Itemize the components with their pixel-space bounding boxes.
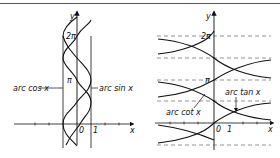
right-tick-one: 1 (227, 125, 232, 134)
arccos-label: arc cos x (13, 84, 49, 93)
right-tick-pi: π (205, 76, 210, 85)
arctan-label: arc tan x (225, 88, 261, 97)
right-x-label: x (267, 125, 273, 134)
left-tick-one: 1 (93, 126, 98, 135)
right-y-label: y (205, 12, 211, 21)
arccot-branch-top (158, 39, 271, 78)
inverse-trig-diagram: arc cos x arc sin x 2π π 0 1 x y (0, 0, 280, 158)
arctan-branch-low (214, 103, 271, 123)
arcsin-label: arc sin x (99, 84, 133, 93)
left-y-label: y (69, 12, 75, 21)
left-tick-zero: 0 (79, 126, 84, 135)
left-tick-pi: π (67, 76, 72, 85)
right-panel-arctan-arccot: arc cot x arc tan x 2π π 0 1 x y (155, 12, 273, 150)
left-panel-arcsin-arccos: arc cos x arc sin x 2π π 0 1 x y (13, 12, 135, 148)
arccot-label: arc cot x (166, 108, 201, 117)
left-x-label: x (129, 126, 135, 135)
right-tick-zero: 0 (216, 125, 221, 134)
right-tick-two-pi: 2π (201, 32, 211, 41)
left-tick-two-pi: 2π (66, 32, 76, 41)
